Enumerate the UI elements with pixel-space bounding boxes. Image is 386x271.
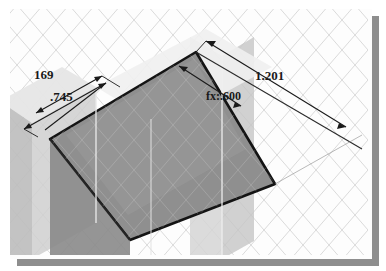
cad-viewport[interactable]: 169 .745 fx:.600 1.201 <box>10 9 372 259</box>
dimension-label-fx600[interactable]: fx:.600 <box>206 90 241 102</box>
dimension-label-169[interactable]: 169 <box>34 68 54 81</box>
scene-graphics <box>10 9 368 255</box>
dimension-label-745[interactable]: .745 <box>50 90 73 103</box>
isometric-scene[interactable]: 169 .745 fx:.600 1.201 <box>10 9 372 259</box>
dimension-label-1201[interactable]: 1.201 <box>255 69 284 82</box>
cad-screenshot: 169 .745 fx:.600 1.201 <box>0 0 386 271</box>
